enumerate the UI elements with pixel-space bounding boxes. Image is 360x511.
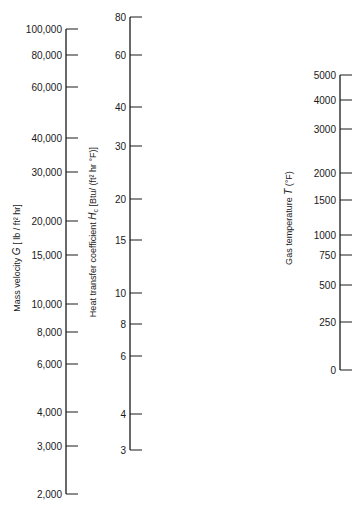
tick-label: 10: [115, 288, 127, 299]
axis-title: Mass velocity G [ lb / ft² hr]: [11, 204, 22, 311]
tick-label: 3000: [314, 124, 337, 135]
heat-transfer-coefficient-axis: 806040302015108643Heat transfer coeffici…: [87, 12, 142, 456]
tick-label: 10,000: [31, 299, 62, 310]
nomogram: 100,00080,00060,00040,00030,00020,00015,…: [0, 0, 360, 511]
tick-label: 5000: [314, 70, 337, 81]
tick-label: 80,000: [31, 50, 62, 61]
tick-label: 20,000: [31, 216, 62, 227]
tick-label: 60: [115, 50, 127, 61]
tick-label: 2,000: [37, 489, 62, 500]
tick-label: 30,000: [31, 167, 62, 178]
tick-label: 15: [115, 235, 127, 246]
tick-label: 6,000: [37, 359, 62, 370]
tick-label: 100,000: [26, 24, 63, 35]
tick-label: 3,000: [37, 441, 62, 452]
tick-label: 750: [319, 250, 336, 261]
tick-label: 4,000: [37, 407, 62, 418]
mass-velocity-axis: 100,00080,00060,00040,00030,00020,00015,…: [11, 24, 78, 500]
tick-label: 0: [330, 365, 336, 376]
tick-label: 1500: [314, 195, 337, 206]
gas-temperature-axis: 5000400030002000150010007505002500Gas te…: [283, 70, 352, 376]
tick-label: 1000: [314, 230, 337, 241]
tick-label: 20: [115, 194, 127, 205]
tick-label: 60,000: [31, 82, 62, 93]
tick-label: 40: [115, 102, 127, 113]
tick-label: 4000: [314, 95, 337, 106]
tick-label: 250: [319, 317, 336, 328]
tick-label: 8: [120, 319, 126, 330]
tick-label: 500: [319, 280, 336, 291]
tick-label: 40,000: [31, 133, 62, 144]
tick-label: 4: [120, 409, 126, 420]
tick-label: 6: [120, 351, 126, 362]
tick-label: 30: [115, 141, 127, 152]
tick-label: 15,000: [31, 250, 62, 261]
tick-label: 80: [115, 12, 127, 23]
tick-label: 3: [120, 445, 126, 456]
tick-label: 8,000: [37, 327, 62, 338]
axis-title: Gas temperature T (°F): [283, 171, 294, 265]
tick-label: 2000: [314, 168, 337, 179]
axis-title: Heat transfer coefficient Hc [Btu/ (ft² …: [87, 147, 99, 317]
